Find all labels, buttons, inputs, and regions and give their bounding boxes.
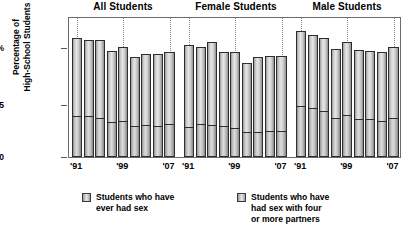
bar-female-students-95 — [207, 42, 217, 157]
bar-segment-four-or-more-partners — [331, 118, 341, 157]
bar-male-students-01 — [354, 50, 364, 157]
bar-segment-four-or-more-partners — [377, 121, 387, 157]
y-axis-title-line-2: High-School Students — [22, 0, 33, 111]
y-tick-label-0: 0 — [0, 152, 4, 162]
bar-segment-four-or-more-partners — [265, 131, 275, 157]
bar-segment-four-or-more-partners — [84, 116, 94, 157]
bar-female-students-05 — [265, 56, 275, 157]
bar-segment-ever-had-sex — [308, 35, 318, 109]
bar-segment-ever-had-sex — [354, 50, 364, 120]
plot-area — [68, 17, 401, 158]
legend-label-ever-had-sex: Students who have ever had sex — [96, 192, 174, 214]
bar-segment-ever-had-sex — [95, 40, 105, 119]
bar-segment-ever-had-sex — [184, 45, 194, 127]
bar-male-students-03 — [365, 51, 375, 157]
bar-segment-ever-had-sex — [130, 57, 140, 127]
legend-label-line: Students who have — [251, 192, 329, 203]
legend-item-four-or-more-partners: Students who have had sex with four or m… — [237, 192, 329, 225]
bar-segment-four-or-more-partners — [242, 132, 252, 157]
bar-segment-four-or-more-partners — [354, 119, 364, 157]
panel-title-female-students: Female Students — [181, 1, 291, 12]
bar-segment-ever-had-sex — [118, 47, 128, 122]
legend-label-line: ever had sex — [96, 203, 174, 214]
legend-swatch-icon-ever-had-sex — [82, 193, 91, 202]
bar-segment-four-or-more-partners — [319, 111, 329, 157]
panel-title-all-students: All Students — [68, 1, 178, 12]
bar-segment-ever-had-sex — [164, 52, 174, 125]
bar-segment-four-or-more-partners — [308, 108, 318, 157]
bar-male-students-07 — [388, 47, 398, 157]
bar-segment-four-or-more-partners — [388, 118, 398, 157]
y-tick-label-25: 25 — [0, 100, 4, 110]
bar-segment-four-or-more-partners — [219, 126, 229, 157]
bar-segment-ever-had-sex — [388, 47, 398, 118]
bar-all-students-91 — [72, 38, 82, 157]
bar-segment-four-or-more-partners — [130, 126, 140, 157]
bar-all-students-93 — [84, 40, 94, 157]
x-tick-label: '91 — [286, 161, 314, 171]
bar-female-students-01 — [242, 63, 252, 157]
legend-item-ever-had-sex: Students who have ever had sex — [82, 192, 174, 214]
legend-label-line: had sex with four — [251, 203, 329, 214]
y-tick-mark-0 — [61, 157, 67, 158]
y-tick-label-50: 50% — [0, 43, 4, 53]
bar-segment-ever-had-sex — [141, 54, 151, 126]
bar-segment-four-or-more-partners — [164, 124, 174, 157]
bar-segment-four-or-more-partners — [72, 116, 82, 157]
chart-root: Percentage of High-School Students 50% 2… — [0, 0, 416, 241]
y-axis-title-line-1: Percentage of — [11, 0, 22, 111]
legend-label-four-or-more-partners: Students who have had sex with four or m… — [251, 192, 329, 225]
bar-segment-four-or-more-partners — [207, 125, 217, 157]
bar-segment-four-or-more-partners — [118, 121, 128, 157]
bar-segment-ever-had-sex — [276, 56, 286, 132]
x-tick-label: '99 — [332, 161, 360, 171]
bar-all-students-05 — [153, 54, 163, 157]
x-tick-label: '99 — [220, 161, 248, 171]
bar-segment-ever-had-sex — [196, 47, 206, 125]
bar-female-students-93 — [196, 47, 206, 157]
bar-segment-four-or-more-partners — [153, 126, 163, 157]
bar-segment-four-or-more-partners — [230, 128, 240, 157]
bar-segment-ever-had-sex — [207, 42, 217, 126]
bar-segment-ever-had-sex — [84, 40, 94, 116]
bar-all-students-01 — [130, 57, 140, 157]
bar-segment-ever-had-sex — [365, 51, 375, 119]
bar-all-students-99 — [118, 47, 128, 157]
bar-male-students-97 — [331, 49, 341, 157]
bar-female-students-03 — [253, 57, 263, 157]
x-tick-label: '91 — [62, 161, 90, 171]
bar-segment-ever-had-sex — [242, 63, 252, 133]
bar-segment-ever-had-sex — [265, 56, 275, 131]
bar-segment-four-or-more-partners — [141, 125, 151, 157]
x-tick-label: '07 — [379, 161, 407, 171]
bar-female-students-91 — [184, 45, 194, 157]
bar-male-students-91 — [296, 31, 306, 157]
x-tick-label: '99 — [108, 161, 136, 171]
bar-segment-four-or-more-partners — [296, 106, 306, 157]
bar-female-students-97 — [219, 52, 229, 157]
y-tick-mark-50 — [61, 48, 67, 49]
y-tick-mark-25 — [61, 105, 67, 106]
bar-female-students-99 — [230, 52, 240, 157]
bar-segment-ever-had-sex — [331, 49, 341, 119]
bar-all-students-03 — [141, 54, 151, 157]
bar-segment-ever-had-sex — [72, 38, 82, 117]
legend-swatch-icon-four-or-more-partners — [237, 193, 246, 202]
legend-label-line: or more partners — [251, 214, 329, 225]
bar-segment-ever-had-sex — [377, 52, 387, 122]
bar-segment-ever-had-sex — [107, 51, 117, 123]
bar-segment-ever-had-sex — [253, 57, 263, 133]
bar-all-students-07 — [164, 52, 174, 157]
bar-male-students-95 — [319, 38, 329, 157]
bar-segment-four-or-more-partners — [276, 131, 286, 157]
bar-all-students-95 — [95, 40, 105, 157]
bar-segment-four-or-more-partners — [253, 132, 263, 157]
bar-segment-ever-had-sex — [319, 38, 329, 112]
bar-segment-four-or-more-partners — [95, 118, 105, 157]
bar-segment-four-or-more-partners — [365, 119, 375, 158]
bar-segment-four-or-more-partners — [107, 122, 117, 157]
bar-female-students-07 — [276, 56, 286, 157]
bar-all-students-97 — [107, 51, 117, 157]
bar-segment-four-or-more-partners — [342, 115, 352, 157]
bar-male-students-99 — [342, 42, 352, 157]
